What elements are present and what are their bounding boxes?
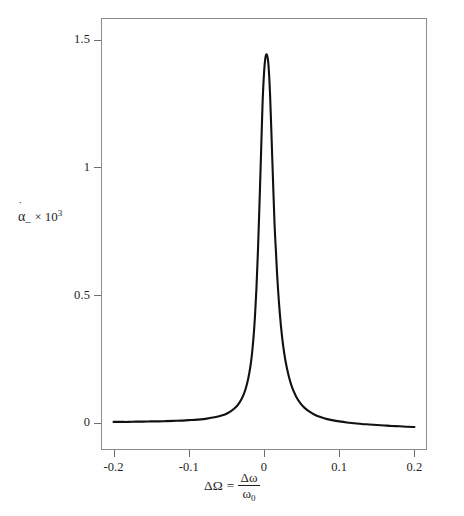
y-tick-label: 1 — [50, 161, 90, 174]
x-axis-label-equals: = — [227, 479, 234, 492]
x-axis-label-lhs: ΔΩ — [204, 479, 223, 493]
y-axis-label-hat: ˙ — [18, 200, 22, 212]
y-tick-label: 0.5 — [50, 289, 90, 302]
x-tick-mark — [114, 450, 115, 457]
x-tick-mark — [264, 450, 265, 457]
y-axis-label: ˙α–×103 — [18, 209, 62, 226]
y-tick-label: 0 — [50, 416, 90, 429]
x-axis-label-fraction: Δω ω0 — [238, 471, 260, 503]
y-axis-label-exponent: 3 — [58, 208, 63, 218]
y-tick-mark — [94, 295, 101, 296]
x-tick-mark — [339, 450, 340, 457]
x-axis-label: ΔΩ = Δω ω0 — [0, 470, 464, 502]
x-tick-mark — [414, 450, 415, 457]
y-axis-label-mantissa: 10 — [45, 209, 58, 224]
x-axis-label-denominator: ω0 — [241, 486, 258, 503]
y-axis-label-symbol: ˙α– — [18, 209, 31, 224]
y-tick-label: 1.5 — [50, 33, 90, 46]
x-axis-label-numerator: Δω — [239, 471, 260, 485]
resonance-curve-path — [114, 54, 415, 427]
y-tick-mark — [94, 423, 101, 424]
x-tick-mark — [189, 450, 190, 457]
y-tick-mark — [94, 167, 101, 168]
y-axis-label-subscript: – — [25, 214, 31, 226]
y-tick-mark — [94, 40, 101, 41]
figure-root: 00.511.5 -0.2-0.100.10.2 ˙α–×103 ΔΩ = Δω… — [0, 0, 464, 516]
x-axis-label-denominator-subscript: 0 — [251, 493, 256, 503]
resonance-curve — [101, 18, 427, 450]
x-axis-label-denominator-omega: ω — [243, 486, 252, 501]
y-axis-label-times: × — [35, 210, 42, 224]
